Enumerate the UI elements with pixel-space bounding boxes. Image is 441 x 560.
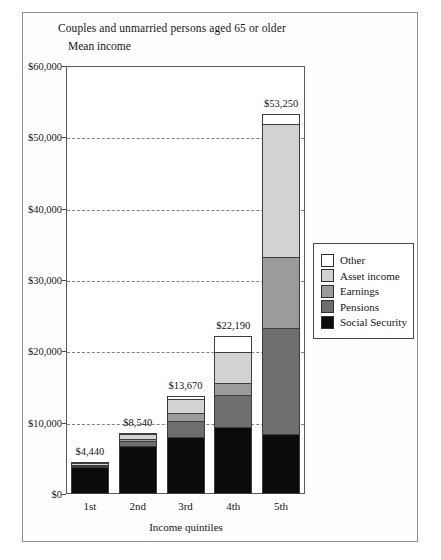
legend-swatch: [321, 285, 334, 298]
legend-swatch: [321, 300, 334, 313]
y-axis-tick-label: $0: [2, 489, 62, 500]
bar-segment: [71, 467, 109, 494]
y-axis-tick-label: $20,000: [2, 346, 62, 357]
legend-label: Earnings: [340, 285, 379, 297]
y-axis-tick-label: $40,000: [2, 203, 62, 214]
bar-segment: [262, 434, 300, 494]
legend-swatch: [321, 269, 334, 282]
bar-segment: [214, 427, 252, 494]
bar-value-label: $22,190: [216, 320, 250, 331]
bar-segment: [167, 399, 205, 413]
y-axis-tick-label: $50,000: [2, 132, 62, 143]
bar: [119, 433, 157, 494]
x-axis-tick-label: 1st: [83, 500, 96, 512]
chart-legend: OtherAsset incomeEarningsPensionsSocial …: [313, 243, 414, 339]
bar-segment: [119, 446, 157, 494]
legend-item: Social Security: [321, 316, 407, 329]
y-axis-tick-label: $60,000: [2, 61, 62, 72]
bar: [214, 336, 252, 494]
bar-value-label: $53,250: [264, 98, 298, 109]
x-axis-tick-label: 5th: [274, 500, 288, 512]
bar-segment: [262, 114, 300, 124]
bar-segment: [262, 124, 300, 257]
legend-item: Asset income: [321, 269, 407, 282]
x-axis-tick-label: 3rd: [178, 500, 193, 512]
chart-subtitle: Mean income: [68, 40, 131, 52]
y-axis-tick-label: $30,000: [2, 275, 62, 286]
legend-label: Pensions: [340, 301, 379, 313]
bar-value-label: $8,540: [123, 417, 152, 428]
bar-segment: [214, 395, 252, 427]
x-axis-title: Income quintiles: [149, 521, 223, 533]
bar-value-label: $13,670: [168, 380, 202, 391]
legend-item: Earnings: [321, 285, 407, 298]
bar: [167, 396, 205, 494]
legend-item: Pensions: [321, 300, 407, 313]
legend-swatch: [321, 316, 334, 329]
bar-segment: [167, 413, 205, 421]
legend-item: Other: [321, 254, 407, 267]
bar-segment: [262, 257, 300, 328]
bar-segment: [214, 336, 252, 353]
y-axis-tick-mark: [62, 494, 66, 495]
x-axis-tick-label: 4th: [226, 500, 240, 512]
y-axis-tick-label: $10,000: [2, 417, 62, 428]
x-axis-tick-label: 2nd: [129, 500, 146, 512]
bar: [71, 462, 109, 494]
bar-segment: [214, 383, 252, 395]
chart-title: Couples and unmarried persons aged 65 or…: [58, 22, 286, 34]
legend-swatch: [321, 254, 334, 267]
bar-segment: [167, 437, 205, 494]
bar: [262, 114, 300, 494]
bar-value-label: $4,440: [75, 446, 104, 457]
y-axis: $0$10,000$20,000$30,000$40,000$50,000$60…: [0, 0, 62, 560]
bar-segment: [262, 328, 300, 434]
bar-segment: [214, 352, 252, 382]
legend-label: Social Security: [340, 316, 407, 328]
legend-label: Asset income: [340, 270, 400, 282]
legend-label: Other: [340, 254, 365, 266]
bar-segment: [167, 421, 205, 437]
